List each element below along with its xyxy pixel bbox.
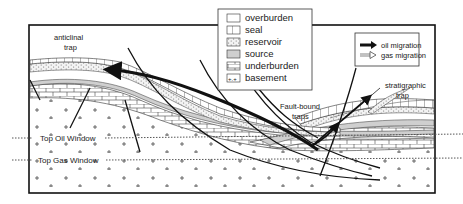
legend-reservoir: reservoir bbox=[245, 36, 282, 47]
label-fault-bound-1: Fault-bound bbox=[280, 102, 320, 111]
legend-basement: basement bbox=[245, 72, 287, 83]
label-stratigraphic-1: stratigraphic bbox=[385, 81, 426, 90]
diagram-canvas: +.+ overburden seal reservoir source und… bbox=[0, 0, 463, 204]
label-top-oil-window: Top Oil Window bbox=[40, 134, 96, 143]
label-fault-bound-2: traps bbox=[292, 112, 309, 121]
legend-seal: seal bbox=[245, 24, 262, 35]
legend-oil-migration: oil migration bbox=[381, 41, 421, 50]
svg-text:+.+: +.+ bbox=[228, 76, 237, 82]
cross-section-svg: +.+ overburden seal reservoir source und… bbox=[0, 0, 463, 204]
legend-source: source bbox=[245, 48, 274, 59]
legend-gas-migration: gas migration bbox=[381, 51, 426, 60]
migration-legend: oil migration gas migration bbox=[355, 33, 426, 66]
label-anticlinal-trap-1: anticlinal bbox=[54, 33, 84, 42]
label-anticlinal-trap-2: trap bbox=[64, 43, 77, 52]
label-stratigraphic-2: trap bbox=[396, 91, 409, 100]
legend-underburden: underburden bbox=[245, 60, 299, 71]
legend-overburden: overburden bbox=[245, 12, 293, 23]
label-top-gas-window: Top Gas Window bbox=[38, 156, 99, 165]
layer-legend: +.+ overburden seal reservoir source und… bbox=[218, 9, 312, 90]
